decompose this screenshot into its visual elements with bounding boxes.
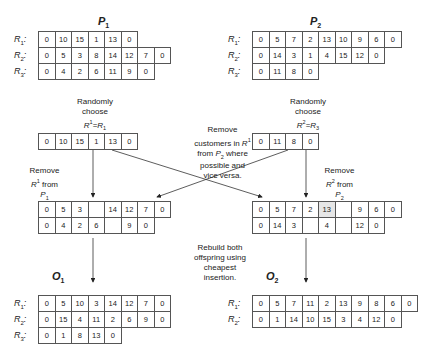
route-cell: 2: [318, 295, 336, 312]
route-cell: 4: [318, 217, 336, 234]
route-cell: 2: [302, 31, 320, 48]
route-cell: 8: [285, 63, 303, 80]
route-row: 042690: [38, 217, 170, 234]
route-cell: 7: [285, 201, 303, 218]
p1-grid: R1:010151130R2:0538141270R3:04261190: [14, 31, 170, 79]
route-cell: 6: [384, 295, 402, 312]
route-cell: 1: [302, 47, 320, 64]
route-label: R1:: [228, 298, 250, 310]
p2-title: P2: [310, 15, 321, 29]
route-cell: 7: [285, 31, 303, 48]
route-cell: 11: [269, 63, 287, 80]
route-cell: 0: [104, 327, 122, 344]
route-cell: 1: [88, 133, 106, 150]
route-cell: 0: [252, 217, 270, 234]
route-cell: 0: [154, 201, 172, 218]
route-label: R2:: [228, 314, 250, 326]
route-label: R3:: [228, 66, 250, 78]
route-cell-empty: [335, 201, 353, 218]
route-label: R3:: [14, 66, 36, 78]
route-cell: 5: [269, 201, 287, 218]
route-label: R1:: [14, 34, 36, 46]
route-cell: 8: [368, 295, 386, 312]
route-cell: 10: [71, 295, 89, 312]
route-cell: 9: [121, 63, 139, 80]
route-cell: 0: [252, 31, 270, 48]
route-cell-empty: [335, 217, 353, 234]
route-cell: 0: [384, 201, 402, 218]
route-cell-empty: [88, 201, 106, 218]
route-cell: 11: [104, 63, 122, 80]
route-row: R2:0114101534120: [228, 311, 417, 328]
o1-grid: R1:05103141270R2:0154112690R3:018130: [14, 295, 170, 343]
route-row: R3:01180: [228, 63, 401, 80]
route-cell: 5: [55, 295, 73, 312]
route-cell: 7: [137, 295, 155, 312]
route-cell: 13: [104, 133, 122, 150]
route-label: R1:: [228, 34, 250, 46]
route-cell: 0: [252, 311, 270, 328]
route-cell: 14: [104, 47, 122, 64]
route-cell: 15: [71, 133, 89, 150]
route-cell: 4: [318, 47, 336, 64]
route-cell: 8: [71, 327, 89, 344]
route-cell: 13: [335, 295, 353, 312]
route-cell: 4: [71, 311, 89, 328]
remove-left-note: Remove R1 from P1: [22, 166, 67, 202]
route-row: R1:05103141270: [14, 295, 170, 312]
route-cell: 0: [384, 311, 402, 328]
route-cell: 6: [88, 63, 106, 80]
choose-left-note: Randomly choose R1=R1: [70, 97, 120, 133]
route-cell: 7: [137, 201, 155, 218]
route-row: 053141270: [38, 201, 170, 218]
route-cell: 3: [285, 217, 303, 234]
route-row: 01434120: [252, 217, 401, 234]
route-cell: 4: [55, 63, 73, 80]
route-cell: 0: [137, 63, 155, 80]
route-cell: 1: [55, 327, 73, 344]
route-cell: 0: [38, 201, 56, 218]
o2-title: O2: [266, 270, 278, 284]
route-cell: 0: [252, 295, 270, 312]
route-cell: 13: [88, 327, 106, 344]
route-cell: 13: [104, 31, 122, 48]
route-cell: 10: [55, 31, 73, 48]
chosen-route-left: 010151130: [38, 133, 137, 149]
route-cell: 0: [38, 217, 56, 234]
route-label: R2:: [14, 50, 36, 62]
route-cell: 12: [351, 47, 369, 64]
route-cell: 2: [302, 201, 320, 218]
route-row: 057213960: [252, 201, 401, 218]
route-cell: 0: [154, 47, 172, 64]
route-cell: 2: [104, 311, 122, 328]
route-cell: 14: [104, 201, 122, 218]
route-cell: 15: [55, 311, 73, 328]
route-cell: 8: [285, 133, 303, 150]
route-cell: 9: [351, 295, 369, 312]
p1-title: P1: [98, 15, 109, 29]
route-cell: 0: [252, 201, 270, 218]
route-cell: 0: [302, 133, 320, 150]
route-cell: 6: [368, 201, 386, 218]
route-label: R2:: [14, 314, 36, 326]
route-cell: 4: [55, 217, 73, 234]
route-cell: 13: [318, 31, 336, 48]
route-cell: 12: [121, 295, 139, 312]
route-cell: 11: [269, 133, 287, 150]
p2-grid: R1:05721310960R2:01431415120R3:01180: [228, 31, 401, 79]
route-cell: 2: [71, 63, 89, 80]
route-cell: 5: [269, 31, 287, 48]
route-cell: 1: [88, 31, 106, 48]
route-cell: 7: [285, 295, 303, 312]
route-cell: 3: [88, 295, 106, 312]
route-row: R2:0538141270: [14, 47, 170, 64]
route-row: R1:05721310960: [228, 31, 401, 48]
route-cell: 0: [121, 31, 139, 48]
route-cell: 14: [269, 47, 287, 64]
route-cell: 0: [252, 63, 270, 80]
route-label: R3:: [14, 330, 36, 342]
route-label: R2:: [228, 50, 250, 62]
route-cell: 12: [121, 47, 139, 64]
route-cell: 0: [38, 63, 56, 80]
route-cell: 15: [335, 47, 353, 64]
